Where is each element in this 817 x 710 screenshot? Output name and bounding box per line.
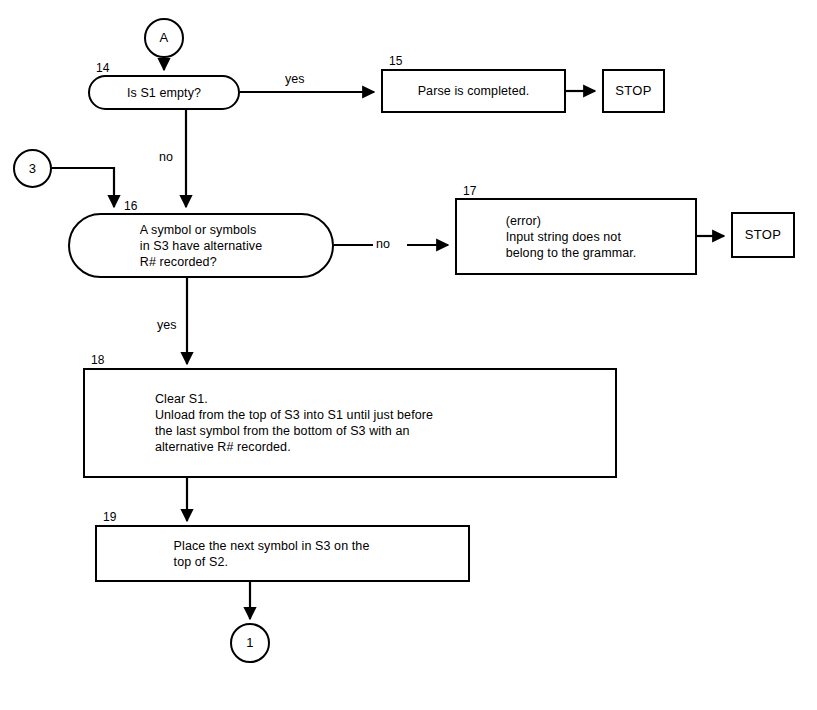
step-number-17: 17: [463, 185, 476, 197]
node-14-is-s1-empty[interactable]: Is S1 empty?: [88, 75, 240, 110]
terminal-stop-mid-label: STOP: [745, 227, 781, 243]
edge-3-to-16: [52, 168, 114, 207]
flowchart-canvas: A 14 Is S1 empty? 15 Parse is completed.…: [0, 0, 817, 710]
node-18-label: Clear S1. Unload from the top of S3 into…: [155, 391, 433, 455]
terminal-stop-top[interactable]: STOP: [602, 69, 665, 113]
connector-3-label: 3: [29, 161, 36, 177]
node-15-parse-completed[interactable]: Parse is completed.: [381, 69, 566, 113]
node-14-label: Is S1 empty?: [127, 85, 201, 101]
connector-a-label: A: [160, 30, 169, 46]
edge-label-16-no: no: [374, 238, 392, 251]
node-15-label: Parse is completed.: [418, 83, 530, 99]
connector-1-label: 1: [246, 635, 253, 651]
connector-3[interactable]: 3: [13, 149, 52, 188]
node-16-alternative-r-recorded[interactable]: A symbol or symbols in S3 have alternati…: [68, 213, 334, 278]
edge-label-14-yes: yes: [283, 73, 306, 86]
step-number-18: 18: [91, 354, 104, 366]
edge-label-14-no: no: [157, 151, 175, 164]
node-16-label: A symbol or symbols in S3 have alternati…: [140, 222, 262, 270]
connector-1[interactable]: 1: [230, 623, 270, 663]
terminal-stop-top-label: STOP: [615, 83, 651, 99]
node-19-label: Place the next symbol in S3 on the top o…: [174, 538, 370, 570]
step-number-19: 19: [103, 511, 116, 523]
step-number-14: 14: [96, 62, 109, 74]
terminal-stop-mid[interactable]: STOP: [731, 212, 795, 258]
connector-a[interactable]: A: [144, 18, 184, 58]
node-17-error-not-in-grammar[interactable]: (error) Input string does not belong to …: [455, 198, 697, 275]
node-17-label: (error) Input string does not belong to …: [506, 213, 637, 261]
node-18-clear-s1-unload[interactable]: Clear S1. Unload from the top of S3 into…: [83, 368, 617, 478]
step-number-15: 15: [389, 55, 402, 67]
step-number-16: 16: [124, 200, 137, 212]
node-19-place-next-symbol[interactable]: Place the next symbol in S3 on the top o…: [95, 525, 470, 582]
edge-label-16-yes: yes: [155, 319, 178, 332]
